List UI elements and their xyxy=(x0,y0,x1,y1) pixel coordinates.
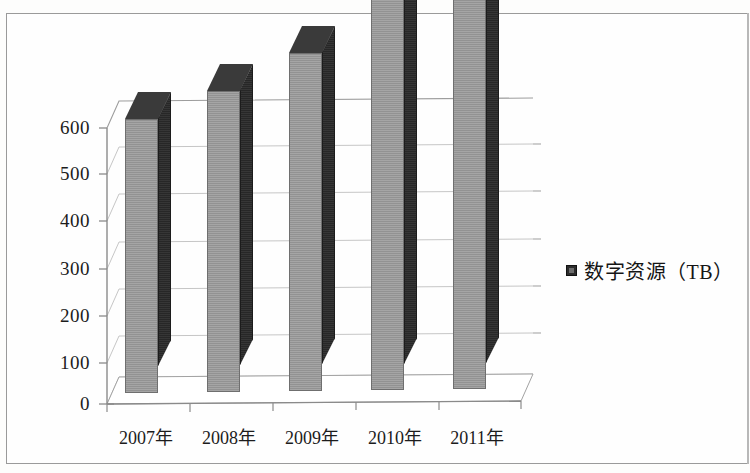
bar-2009-front xyxy=(289,53,322,391)
right-wall-ticks xyxy=(533,144,541,333)
bar-2009 xyxy=(289,0,335,391)
y-tick-label-400: 400 xyxy=(32,210,90,232)
x-tick-label-2008: 2008年 xyxy=(183,423,275,449)
bar-2010 xyxy=(371,0,417,390)
bar-2009-side xyxy=(322,26,335,364)
chart-page: 600 500 400 300 200 100 0 2007年 2008年 20… xyxy=(0,0,750,473)
y-tick-label-0: 0 xyxy=(32,393,90,415)
bar-2008 xyxy=(207,0,253,392)
x-tick-label-2009: 2009年 xyxy=(266,423,358,449)
bar-2007 xyxy=(125,0,171,393)
bar-2011 xyxy=(453,0,499,389)
y-tick-label-500: 500 xyxy=(32,163,90,185)
bar-2007-side xyxy=(158,92,171,366)
chart-legend: 数字资源（TB） xyxy=(566,256,734,285)
x-tick-label-2010: 2010年 xyxy=(349,423,441,449)
y-tick-label-100: 100 xyxy=(32,352,90,374)
legend-label: 数字资源（TB） xyxy=(584,256,734,285)
legend-swatch-icon xyxy=(566,265,577,276)
y-tick-label-300: 300 xyxy=(32,258,90,280)
bar-2008-front xyxy=(207,91,240,392)
bar-2010-side xyxy=(404,0,417,364)
x-tick-label-2011: 2011年 xyxy=(431,423,523,449)
bar-2007-front xyxy=(125,119,158,393)
x-tick-label-2007: 2007年 xyxy=(100,423,192,449)
bar-2008-side xyxy=(240,64,253,365)
bar-2010-front xyxy=(371,0,404,390)
y-tick-label-200: 200 xyxy=(32,305,90,327)
y-tick-label-600: 600 xyxy=(32,117,90,139)
bar-2011-front xyxy=(453,0,486,389)
bar-2011-side xyxy=(486,0,499,363)
